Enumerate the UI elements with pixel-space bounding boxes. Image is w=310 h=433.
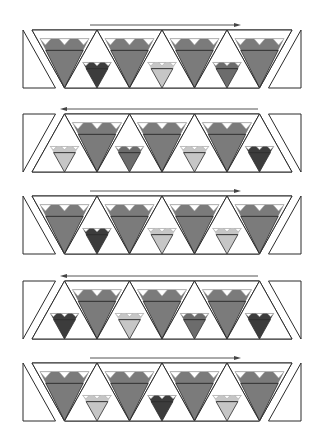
arrow-right-icon <box>90 23 241 27</box>
strip-5 <box>23 356 301 421</box>
arrow-head <box>60 274 67 278</box>
arrow-head <box>234 23 241 27</box>
arrow-left-icon <box>60 274 258 278</box>
arrow-head <box>60 107 67 111</box>
diagram-canvas <box>0 0 310 433</box>
arrow-left-icon <box>60 107 258 111</box>
arrow-right-icon <box>90 189 241 193</box>
strip-1 <box>23 23 301 88</box>
arrow-head <box>234 356 241 360</box>
frieze-diagram <box>0 0 310 433</box>
strip-4 <box>23 274 301 339</box>
arrow-head <box>234 189 241 193</box>
strip-3 <box>23 189 301 254</box>
strip-2 <box>23 107 301 172</box>
arrow-right-icon <box>90 356 241 360</box>
